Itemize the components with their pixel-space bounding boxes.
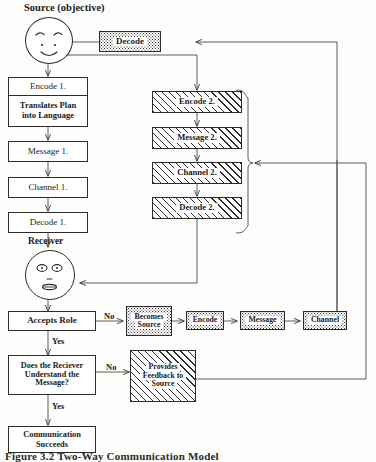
becomes-source-line2: Source: [135, 321, 164, 329]
feedback-line3: Source: [149, 380, 178, 388]
encode3-label: Encode: [190, 316, 221, 324]
receiver-face-icon: [25, 250, 75, 300]
understand-line3: Message?: [35, 379, 69, 388]
encode1-title: Encode 1.: [30, 78, 66, 95]
node-becomes-source[interactable]: Becomes Source: [126, 306, 172, 336]
channel2-label: Channel 2.: [174, 168, 220, 177]
node-accepts-role[interactable]: Accepts Role: [8, 311, 96, 331]
succeeds-line2: Succeeds: [36, 440, 68, 449]
encode2-label: Encode 2.: [176, 97, 218, 106]
node-message2[interactable]: Message 2.: [152, 127, 242, 149]
edge-label-no-role: No: [104, 311, 114, 321]
decode1-label: Decode 1.: [30, 218, 66, 228]
figure-caption: Figure 3.2 Two-Way Communication Model: [5, 450, 219, 462]
edge-label-yes-role: Yes: [52, 336, 64, 346]
node-encode3[interactable]: Encode: [186, 311, 224, 330]
node-channel1[interactable]: Channel 1.: [8, 177, 88, 198]
node-channel3[interactable]: Channel: [303, 311, 347, 330]
node-understand-question[interactable]: Does the Reciever Understand the Message…: [8, 355, 96, 395]
node-provides-feedback[interactable]: Provides Feedback to Source: [130, 350, 196, 402]
message3-label: Message: [245, 316, 279, 324]
page-title: Source (objective): [24, 2, 105, 13]
edge-label-yes-understand: Yes: [52, 401, 64, 411]
source-face-glyph: [26, 18, 72, 63]
source-face-icon: [25, 17, 73, 64]
node-encode1[interactable]: Encode 1. Translates Plan into Language: [8, 77, 88, 127]
message2-label: Message 2.: [174, 133, 220, 142]
node-decode1[interactable]: Decode 1.: [8, 212, 88, 233]
node-decode2[interactable]: Decode 2.: [152, 197, 242, 219]
edge-label-no-understand: No: [106, 362, 116, 372]
succeeds-line1: Communication: [23, 430, 81, 439]
top-decode-label: Decode: [113, 37, 147, 47]
node-message3[interactable]: Message: [240, 311, 285, 330]
decode2-label: Decode 2.: [176, 203, 217, 212]
message1-label: Message 1.: [28, 147, 69, 157]
receiver-label: Receiver: [28, 236, 63, 246]
accepts-role-label: Accepts Role: [27, 316, 77, 326]
node-message1[interactable]: Message 1.: [8, 141, 88, 162]
node-encode2[interactable]: Encode 2.: [152, 91, 242, 113]
node-channel2[interactable]: Channel 2.: [152, 162, 242, 184]
feedback-loop-line: [178, 163, 366, 379]
node-communication-succeeds[interactable]: Communication Succeeds: [8, 426, 96, 453]
node-top-decode[interactable]: Decode: [99, 31, 161, 52]
channel3-label: Channel: [308, 316, 342, 324]
encode1-sub2: into Language: [20, 111, 76, 120]
receiver-face-glyph: [26, 251, 74, 299]
channel1-label: Channel 1.: [29, 183, 68, 193]
